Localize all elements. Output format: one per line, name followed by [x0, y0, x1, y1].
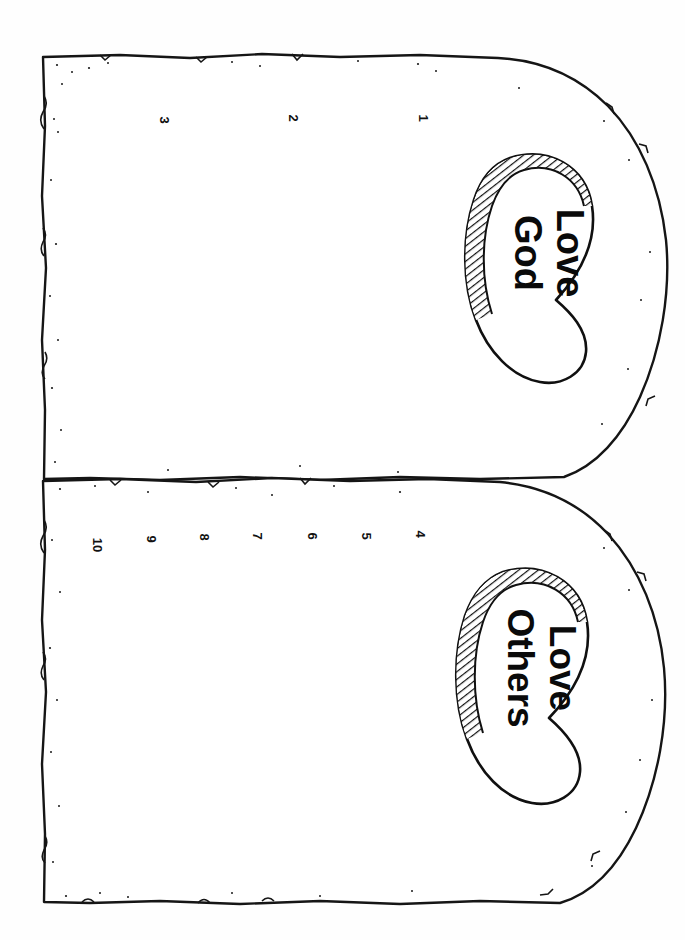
commandment-number-9: 9	[144, 535, 159, 542]
commandment-number-4: 4	[413, 530, 428, 538]
tablet-two: 4 5 6 7 8 9 10 Love Others	[41, 478, 665, 904]
heart-love-god-line2: God	[507, 215, 549, 291]
commandment-number-7: 7	[250, 532, 265, 539]
commandment-number-3: 3	[157, 116, 172, 123]
tablets-illustration: 1 2 3 Love God	[0, 0, 685, 940]
worksheet-page: 1 2 3 Love God	[0, 0, 685, 940]
heart-love-others-text: Love Others	[500, 608, 583, 727]
heart-love-god-line1: Love	[549, 209, 591, 298]
commandment-number-6: 6	[305, 532, 320, 539]
commandment-number-1: 1	[416, 114, 431, 121]
commandment-number-8: 8	[197, 533, 212, 540]
commandment-number-2: 2	[286, 114, 301, 121]
heart-love-god-text: Love God	[507, 209, 591, 298]
heart-love-others-line1: Love	[542, 625, 583, 711]
tablet-one: 1 2 3 Love God	[41, 54, 668, 480]
commandment-number-10: 10	[90, 538, 105, 552]
commandment-number-5: 5	[359, 532, 374, 539]
heart-love-others-line2: Others	[500, 608, 541, 727]
